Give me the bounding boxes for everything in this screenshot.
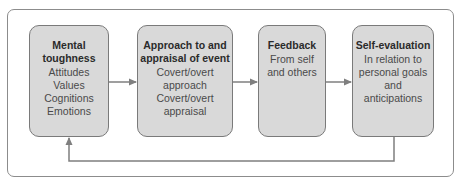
node-body: Attitudes Values Cognitions Emotions [30,66,108,118]
body-line: From self [259,53,325,66]
node-title: Feedback [259,39,325,52]
body-line: Values [30,79,108,92]
arrow-selfeval-loop-to-mental [69,137,394,161]
node-feedback: Feedback From self and others [258,25,326,137]
title-line: Feedback [259,39,325,52]
title-line: Approach to and [138,39,232,52]
title-line: Self-evaluation [353,39,433,52]
node-title: Approach to and appraisal of event [138,39,232,65]
node-mental-toughness: Mental toughness Attitudes Values Cognit… [29,25,109,137]
body-line: anticipations [353,92,433,105]
body-line: Emotions [30,105,108,118]
body-line: appraisal [138,105,232,118]
node-body: Covert/overt approach Covert/overt appra… [138,66,232,118]
node-approach-appraisal: Approach to and appraisal of event Cover… [137,25,233,137]
node-body: In relation to personal goals and antici… [353,53,433,105]
body-line: approach [138,79,232,92]
body-line: Attitudes [30,66,108,79]
node-title: Self-evaluation [353,39,433,52]
body-line: Cognitions [30,92,108,105]
body-line: Covert/overt [138,92,232,105]
node-title: Mental toughness [30,39,108,65]
node-body: From self and others [259,53,325,79]
body-line: and [353,79,433,92]
body-line: In relation to [353,53,433,66]
title-line: appraisal of event [138,52,232,65]
body-line: personal goals [353,66,433,79]
body-line: and others [259,66,325,79]
title-line: Mental [30,39,108,52]
node-self-evaluation: Self-evaluation In relation to personal … [352,25,434,137]
body-line: Covert/overt [138,66,232,79]
title-line: toughness [30,52,108,65]
